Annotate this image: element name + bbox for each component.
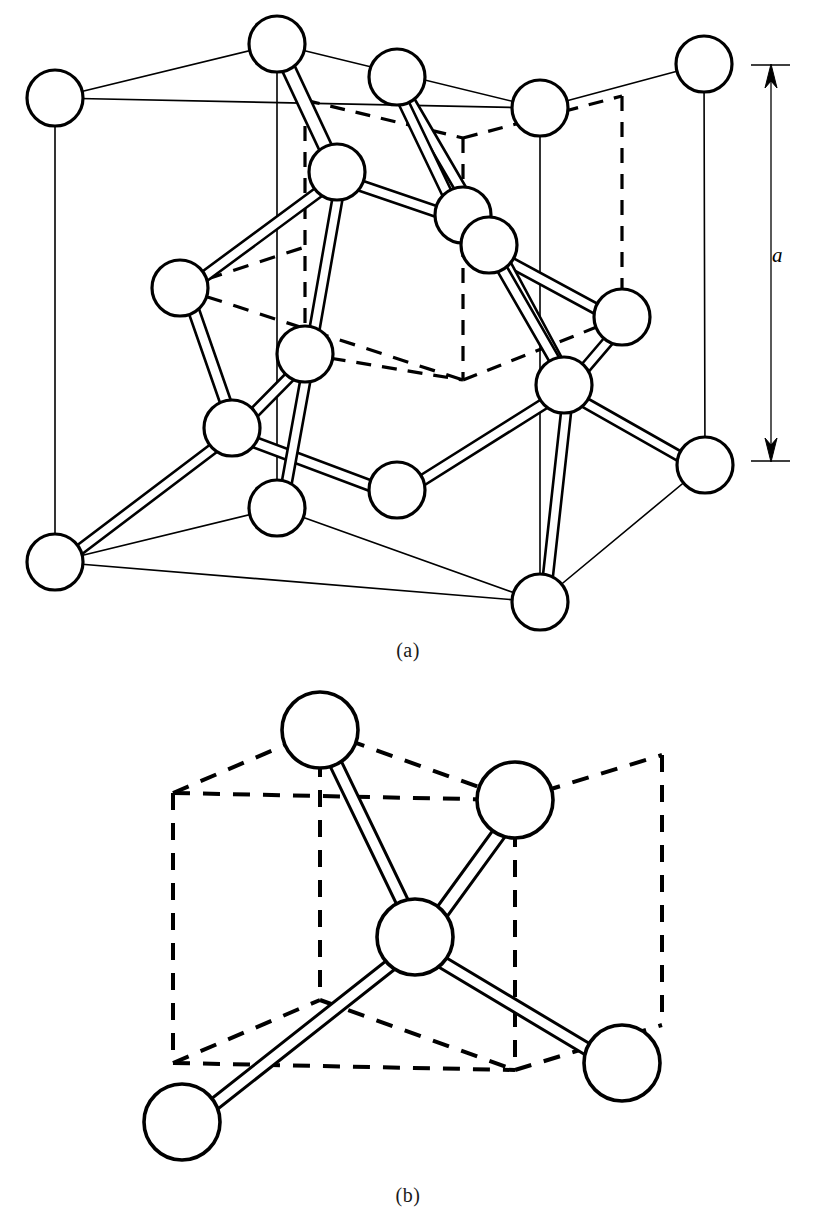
atom-cube-corner	[249, 16, 305, 72]
atom-tetrahedral-interior	[461, 217, 517, 273]
atom-cube-corner	[512, 574, 568, 630]
atom-cube-corner	[477, 762, 553, 838]
atom-face-center	[369, 49, 425, 105]
atom-face-center	[594, 289, 650, 345]
atom-cube-corner	[27, 70, 83, 126]
atom-cube-corner	[282, 692, 358, 768]
atom-cube-corner	[27, 534, 83, 590]
atom-cube-corner	[144, 1084, 220, 1160]
atom-face-center	[152, 260, 208, 316]
panel-a-caption: (a)	[0, 639, 816, 662]
atom-tetrahedral-interior	[309, 144, 365, 200]
atom-tetrahedral-interior	[536, 357, 592, 413]
atom-cube-corner	[512, 80, 568, 136]
figure-root: (a) a	[0, 0, 816, 1227]
atom-face-center	[277, 326, 333, 382]
atom-cube-corner	[676, 36, 732, 92]
atom-tetrahedral-interior	[204, 400, 260, 456]
lattice-parameter-label: a	[772, 243, 783, 268]
panel-b-caption: (b)	[0, 1184, 816, 1207]
atom-face-center	[369, 462, 425, 518]
atom-tetrahedral-center	[377, 899, 453, 975]
panel-b-tetrahedral-bonding-unit	[0, 670, 816, 1210]
atom-cube-corner	[249, 480, 305, 536]
dimension-arrow-a	[751, 64, 790, 462]
panel-a-diamond-cubic-unit-cell	[0, 0, 816, 640]
atoms-panel-a	[27, 16, 733, 630]
atom-cube-corner	[584, 1025, 660, 1101]
atom-cube-corner	[677, 437, 733, 493]
